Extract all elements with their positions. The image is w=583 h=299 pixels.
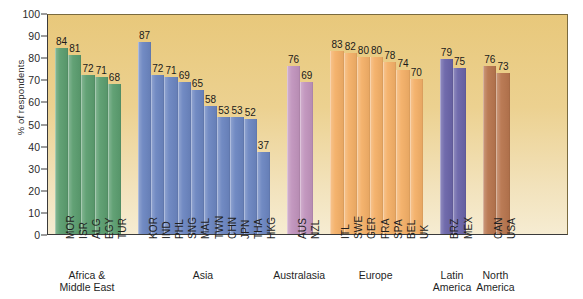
bar-brz: [440, 59, 453, 234]
category-label-isr: ISR: [78, 222, 89, 239]
category-label-brz: BRZ: [449, 218, 460, 239]
category-label-swe: SWE: [353, 216, 364, 239]
bar-value-tur: 68: [109, 72, 120, 83]
category-label-egy: EGY: [104, 217, 115, 239]
category-label-spa: SPA: [393, 219, 404, 239]
bar-value-nzl: 69: [301, 70, 312, 81]
y-axis-tick-label: 40: [0, 141, 40, 153]
bar-tur: [108, 84, 121, 234]
group-label-africa: Africa & Middle East: [60, 270, 115, 293]
category-label-alg: ALG: [91, 218, 102, 239]
bar-tha: [244, 119, 257, 234]
bar-ind: [151, 75, 164, 234]
bar-value-isr: 81: [69, 43, 80, 54]
bar-mal: [191, 90, 204, 234]
bar-aus: [287, 66, 300, 234]
bar-uk: [410, 79, 423, 234]
category-label-ind: IND: [161, 221, 172, 239]
category-label-uk: UK: [419, 225, 430, 239]
bar-value-alg: 72: [82, 63, 93, 74]
y-axis-tick-label: 90: [0, 30, 40, 42]
bar-value-twn: 58: [205, 94, 216, 105]
bar-can: [483, 66, 496, 234]
y-axis-tick-labels: 1009080706050403020100: [0, 14, 40, 235]
group-label-latin: Latin America: [433, 270, 472, 293]
category-label-bel: BEL: [406, 219, 417, 239]
bar-sng: [178, 82, 191, 234]
category-label-mor: MOR: [65, 215, 76, 239]
bar-bel: [396, 70, 409, 234]
bar-value-can: 76: [484, 54, 495, 65]
bar-mor: [55, 48, 68, 234]
category-label-tur: TUR: [117, 218, 128, 239]
y-axis-tick-label: 60: [0, 96, 40, 108]
category-label-mal: MAL: [200, 218, 211, 239]
bar-value-fra: 80: [371, 45, 382, 56]
bar-value-spa: 78: [384, 50, 395, 61]
bar-value-kor: 87: [139, 30, 150, 41]
bar-value-mal: 65: [192, 78, 203, 89]
y-axis-tick-label: 70: [0, 74, 40, 86]
category-label-usa: USA: [506, 218, 517, 239]
bar-value-tha: 52: [245, 107, 256, 118]
plot-area: 8481727168877271696558535352377669838280…: [47, 14, 568, 235]
y-axis-tick-label: 30: [0, 163, 40, 175]
bar-egy: [95, 77, 108, 234]
category-label-fra: FRA: [380, 218, 391, 239]
bar-fra: [370, 57, 383, 234]
group-label-north: North America: [476, 270, 515, 293]
bar-value-aus: 76: [288, 54, 299, 65]
category-label-kor: KOR: [148, 217, 159, 239]
bar-spa: [383, 62, 396, 234]
bars-layer: 8481727168877271696558535352377669838280…: [48, 15, 567, 234]
bar-mex: [453, 68, 466, 234]
category-label-can: CAN: [493, 217, 504, 239]
category-label-jpn: JPN: [240, 220, 251, 240]
bar-value-egy: 71: [96, 65, 107, 76]
bar-value-ger: 80: [358, 45, 369, 56]
y-axis-tick-label: 20: [0, 185, 40, 197]
group-label-asia: Asia: [193, 270, 213, 282]
bar-phl: [164, 77, 177, 234]
bar-value-swe: 82: [345, 41, 356, 52]
category-label-chn: CHN: [227, 217, 238, 239]
bar-value-itl: 83: [331, 39, 342, 50]
category-label-ger: GER: [366, 217, 377, 239]
category-label-nzl: NZL: [310, 220, 321, 240]
bar-ger: [357, 57, 370, 234]
bar-value-usa: 73: [497, 61, 508, 72]
bar-value-jpn: 53: [231, 105, 242, 116]
bar-value-brz: 79: [441, 47, 452, 58]
category-label-twn: TWN: [214, 216, 225, 239]
bar-itl: [330, 51, 343, 234]
bar-value-sng: 69: [179, 70, 190, 81]
category-label-mex: MEX: [463, 217, 474, 239]
bar-isr: [68, 55, 81, 234]
bar-value-phl: 71: [165, 65, 176, 76]
y-axis-tick-label: 50: [0, 119, 40, 131]
y-axis-tick-label: 0: [0, 229, 40, 241]
bar-value-mor: 84: [56, 36, 67, 47]
bar-value-mex: 75: [454, 56, 465, 67]
bar-value-hkg: 37: [258, 140, 269, 151]
bar-value-bel: 74: [397, 58, 408, 69]
category-label-sng: SNG: [187, 217, 198, 239]
bar-value-chn: 53: [218, 105, 229, 116]
bar-usa: [496, 73, 509, 234]
bar-value-uk: 70: [411, 67, 422, 78]
group-label-europe: Europe: [359, 270, 393, 282]
chart-title: [47, 0, 547, 2]
bar-kor: [138, 42, 151, 234]
category-label-phl: PHL: [174, 219, 185, 239]
bar-value-ind: 72: [152, 63, 163, 74]
category-label-itl: ITL: [340, 224, 351, 239]
bar-nzl: [300, 82, 313, 234]
bar-swe: [344, 53, 357, 234]
category-label-hkg: HKG: [266, 217, 277, 239]
category-label-tha: THA: [253, 218, 264, 239]
group-label-australasia: Australasia: [273, 270, 325, 282]
y-axis-tick-label: 100: [0, 8, 40, 20]
y-axis-tick-label: 10: [0, 207, 40, 219]
bar-chart: % of respondents 1009080706050403020100 …: [0, 0, 583, 299]
bar-alg: [81, 75, 94, 234]
